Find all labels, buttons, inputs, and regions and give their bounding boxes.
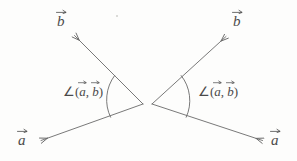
left-vector-a-letter: a <box>18 132 26 148</box>
scan-artifact-speck <box>116 15 118 17</box>
right-angle-arc <box>181 76 190 118</box>
angle-open-paren: ∠( <box>63 84 79 99</box>
left-vector-b-letter: b <box>57 13 65 29</box>
right-vector-a-line <box>152 104 263 141</box>
angle-close-paren: ) <box>234 84 238 99</box>
right-vector-a-letter: a <box>271 132 279 148</box>
left-vector-a-line <box>41 104 143 141</box>
right-angle-label: ∠(a, b) <box>198 84 238 100</box>
right-vector-b-letter: b <box>233 13 241 29</box>
angle-first-letter: a <box>214 84 221 99</box>
left-vector-b-label: b <box>57 14 65 29</box>
angle-second-letter: b <box>92 84 99 99</box>
angle-close-paren: ) <box>99 84 103 99</box>
left-angle-label: ∠(a, b) <box>63 84 103 100</box>
right-vector-a-label: a <box>271 133 279 148</box>
figure-canvas <box>0 0 297 161</box>
left-vector-a-label: a <box>18 133 26 148</box>
angle-first-letter: a <box>79 84 86 99</box>
vector-angle-figure: b a ∠(a, b) b a ∠(a, <box>0 0 297 161</box>
angle-second-letter: b <box>227 84 234 99</box>
right-vector-b-label: b <box>233 14 241 29</box>
angle-open-paren: ∠( <box>198 84 214 99</box>
left-angle-arc <box>107 76 115 118</box>
